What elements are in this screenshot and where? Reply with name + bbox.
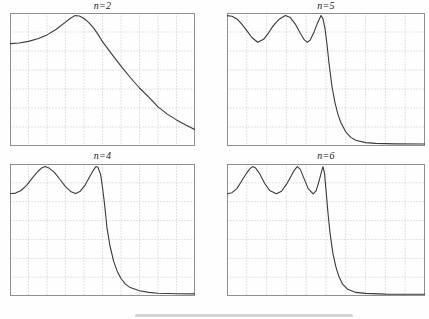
subplot-n4: n=4 (10, 150, 195, 296)
plot-canvas-n4 (10, 164, 195, 296)
plot-title-n5: n=5 (227, 0, 425, 13)
subplot-n2: n=2 (10, 0, 195, 146)
plot-canvas-n2 (10, 13, 195, 146)
figure-canvas: n=2 n=5 n=4 n=6 (0, 0, 429, 319)
plot-title-n6: n=6 (227, 150, 425, 163)
plot-canvas-n6 (227, 164, 425, 296)
plot-title-n4: n=4 (10, 150, 195, 163)
subplot-n6: n=6 (227, 150, 425, 296)
bottom-partial-bar (135, 314, 353, 317)
subplot-n5: n=5 (227, 0, 425, 146)
plot-canvas-n5 (227, 13, 425, 146)
plot-title-n2: n=2 (10, 0, 195, 13)
